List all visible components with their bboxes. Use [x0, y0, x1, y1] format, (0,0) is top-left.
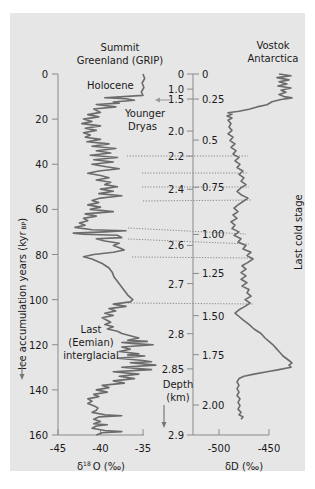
y-tick-label: 140: [29, 385, 48, 396]
vostok-x-axis-label: δD (‰): [225, 461, 263, 472]
younger-dryas-label-line2: Dryas: [128, 121, 157, 132]
depth-down-arrow-icon: [162, 405, 167, 428]
vostok-depth-label: 2.00: [202, 400, 224, 411]
greenland-depth-label: 2.0: [168, 126, 184, 137]
greenland-title-line2: Greenland (GRIP): [77, 55, 164, 66]
vostok-dD-curve: [227, 74, 292, 419]
greenland-depth-label: 2.85: [162, 364, 184, 375]
greenland-y-axis-label: Ice accumulation years (kyrBP): [17, 218, 28, 370]
vostok-title-line2: Antarctica: [248, 53, 299, 64]
y-tick-label: 60: [35, 204, 48, 215]
greenland-depth-label: 2.6: [168, 240, 184, 251]
vostok-depth-label: 1.00: [202, 229, 224, 240]
vostok-depth-label: 0: [202, 69, 208, 80]
greenland-depth-label: 1.5: [168, 94, 184, 105]
vostok-x-ticks: -500-450: [208, 429, 281, 454]
correlation-line: [128, 303, 254, 304]
y-tick-label: 20: [35, 114, 48, 125]
greenland-x-axis-label: δ18O (‰): [77, 460, 125, 472]
correlation-line: [128, 228, 246, 234]
greenland-title-line1: Summit: [101, 42, 140, 53]
vostok-depth-label: 0.25: [202, 94, 224, 105]
y-tick-label: 0: [42, 69, 48, 80]
y-tick-label: 80: [35, 250, 48, 261]
y-tick-label: 100: [29, 295, 48, 306]
last-cold-stage-label: Last cold stage: [293, 194, 304, 270]
vostok-depth-label: 1.25: [202, 268, 224, 279]
vostok-depth-label: 1.50: [202, 311, 224, 322]
vostok-depth-label: 0.75: [202, 182, 224, 193]
depth-label-line1: Depth: [163, 379, 193, 390]
y-tick-label: 40: [35, 159, 48, 170]
vostok-depth-ticks: 00.250.50.751.001.251.501.752.00: [193, 69, 224, 411]
x-tick-label: -40: [92, 443, 108, 454]
greenland-depth-label: 2.2: [168, 151, 184, 162]
x-tick-label: -45: [50, 443, 66, 454]
holocene-label: Holocene: [87, 80, 134, 91]
vostok-title-line1: Vostok: [256, 40, 289, 51]
eemian-label-line2: (Eemian): [68, 337, 113, 348]
vostok-depth-label: 1.75: [202, 350, 224, 361]
greenland-depth-label: 2.9: [168, 430, 184, 441]
svg-text:Ice accumulation years (kyrBP): Ice accumulation years (kyrBP): [17, 218, 28, 370]
correlation-line: [143, 200, 252, 201]
greenland-depth-label: 2.4: [168, 184, 184, 195]
eemian-label-line3: interglacial: [63, 350, 119, 361]
x-tick-label: -500: [208, 443, 231, 454]
greenland-y-ticks: 020406080100120140160: [29, 69, 58, 441]
y-tick-label: 160: [29, 430, 48, 441]
greenland-depth-label: 2.7: [168, 279, 184, 290]
x-tick-label: -35: [135, 443, 151, 454]
younger-dryas-label-line1: Younger: [124, 108, 166, 119]
vostok-depth-label: 0.5: [202, 135, 218, 146]
greenland-depth-label: 0: [178, 69, 184, 80]
greenland-depth-label: 2.8: [168, 329, 184, 340]
y-tick-label: 120: [29, 340, 48, 351]
x-tick-label: -450: [258, 443, 281, 454]
correlation-line: [128, 239, 249, 244]
ylabel-text: Ice accumulation years (kyr: [17, 230, 28, 370]
depth-label-line2: (km): [166, 392, 189, 403]
eemian-label-line1: Last: [81, 324, 102, 335]
ice-core-chart: Summit Greenland (GRIP) Vostok Antarctic…: [0, 0, 315, 489]
